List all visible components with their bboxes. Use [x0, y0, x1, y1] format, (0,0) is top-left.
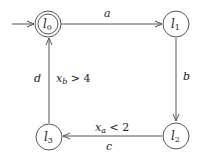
- diagram-svg: a b xa < 2 c d xb > 4 l0 l1 l2: [0, 0, 202, 159]
- edge-label-a: a: [104, 7, 111, 20]
- location-l3: l3: [36, 124, 62, 150]
- edge-label-d: d: [34, 72, 41, 85]
- edge-label-c: c: [106, 140, 112, 153]
- edge-label-b: b: [183, 70, 190, 83]
- edge-guard-d: xb > 4: [56, 72, 91, 86]
- automaton-diagram: a b xa < 2 c d xb > 4 l0 l1 l2: [0, 0, 202, 159]
- location-l0: l0: [35, 11, 61, 37]
- location-l2: l2: [163, 123, 189, 149]
- edge-guard-c: xa < 2: [95, 121, 129, 135]
- location-l1: l1: [163, 11, 189, 37]
